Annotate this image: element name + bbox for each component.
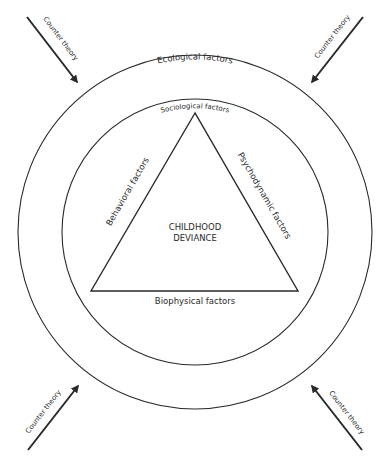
behavioral-label: Behavioral factors	[104, 155, 152, 227]
svg-text:Counter theory: Counter theory	[41, 15, 79, 62]
childhood-deviance-diagram: Ecological factors Sociological factors …	[0, 0, 383, 469]
psychodynamic-label: Psychodynamic factors	[236, 151, 294, 241]
counter-theory-arrow-bottom-left: Counter theory	[24, 386, 78, 450]
counter-theory-arrow-top-right: Counter theory	[312, 13, 363, 82]
counter-theory-arrow-bottom-right: Counter theory	[312, 386, 366, 450]
svg-text:Counter theory: Counter theory	[313, 13, 352, 60]
center-label-line2: DEVIANCE	[173, 233, 217, 243]
counter-theory-arrow-top-left: Counter theory	[27, 15, 80, 82]
ecological-label: Ecological factors	[156, 51, 234, 65]
biophysical-label: Biophysical factors	[155, 296, 236, 306]
center-label-line1: CHILDHOOD	[169, 222, 222, 232]
